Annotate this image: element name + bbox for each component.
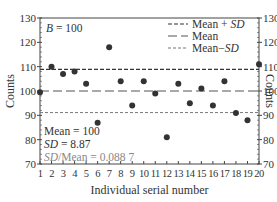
- y2-tick-label: 80: [263, 134, 275, 146]
- x-tick-label: 9: [130, 168, 135, 179]
- data-point: [187, 100, 193, 106]
- data-point: [244, 117, 250, 123]
- y-tick-label: 100: [20, 85, 37, 97]
- y2-tick-label: 110: [263, 61, 277, 73]
- data-point: [118, 78, 124, 84]
- data-point: [129, 103, 135, 109]
- x-tick-label: 11: [151, 168, 160, 179]
- y2-tick-label: 120: [263, 36, 277, 48]
- x-tick-label: 15: [197, 168, 207, 179]
- data-point: [164, 134, 170, 140]
- x-tick-label: 14: [185, 168, 196, 179]
- data-point: [60, 71, 66, 77]
- data-point: [221, 78, 227, 84]
- x-tick-label: 4: [72, 168, 78, 179]
- data-point: [141, 78, 147, 84]
- sd-annotation: SD = 8.87: [44, 138, 91, 150]
- x-tick-label: 2: [49, 168, 54, 179]
- y-axis-label: Counts: [3, 74, 17, 108]
- y2-tick-label: 90: [263, 109, 275, 121]
- x-tick-label: 8: [118, 168, 123, 179]
- data-point: [49, 64, 55, 70]
- x-axis-label: Individual serial number: [91, 183, 209, 197]
- x-tick-label: 10: [139, 168, 149, 179]
- legend-label: Mean−SD: [192, 42, 239, 54]
- x-tick-label: 16: [208, 168, 218, 179]
- annotations: B = 100Mean = 100SD = 8.87SD/Mean = 0.08…: [44, 22, 134, 163]
- y-tick-label: 120: [20, 36, 37, 48]
- data-point: [175, 81, 181, 87]
- legend: Mean + SDMeanMean−SD: [168, 18, 245, 54]
- x-tick-label: 5: [84, 168, 89, 179]
- data-point: [83, 81, 89, 87]
- x-tick-label: 12: [162, 168, 172, 179]
- x-tick-label: 20: [254, 168, 264, 179]
- mean-annotation: Mean = 100: [44, 125, 100, 137]
- y2-tick-label: 130: [263, 12, 277, 24]
- data-point: [210, 103, 216, 109]
- data-point: [233, 110, 239, 116]
- legend-label: Mean: [192, 30, 218, 42]
- data-point: [198, 86, 204, 92]
- y-tick-label: 90: [25, 109, 37, 121]
- x-tick-label: 3: [61, 168, 66, 179]
- y2-tick-label: 70: [263, 158, 275, 170]
- reference-lines: [40, 69, 259, 112]
- data-point: [37, 89, 43, 95]
- legend-label: Mean + SD: [192, 18, 245, 30]
- x-tick-label: 7: [107, 168, 112, 179]
- y-tick-label: 70: [25, 158, 37, 170]
- sd-mean-ratio-annotation: SD/Mean = 0.088 7: [44, 151, 134, 163]
- y-tick-label: 80: [25, 134, 37, 146]
- y-tick-label: 130: [20, 12, 37, 24]
- data-point: [72, 69, 78, 75]
- x-tick-label: 13: [174, 168, 184, 179]
- x-tick-label: 1: [38, 168, 43, 179]
- x-tick-label: 18: [231, 168, 241, 179]
- scatter-chart: 7070808090901001001101101201201301301234…: [0, 0, 277, 202]
- x-tick-label: 6: [95, 168, 100, 179]
- b-annotation: B = 100: [46, 22, 83, 34]
- data-point: [256, 61, 262, 67]
- y-tick-label: 110: [20, 61, 37, 73]
- data-point: [106, 44, 112, 50]
- x-tick-label: 17: [220, 168, 230, 179]
- data-point: [152, 90, 158, 96]
- y2-axis-label: Counts: [263, 74, 277, 108]
- x-tick-label: 19: [243, 168, 253, 179]
- plot-area: 7070808090901001001101101201201301301234…: [3, 12, 277, 197]
